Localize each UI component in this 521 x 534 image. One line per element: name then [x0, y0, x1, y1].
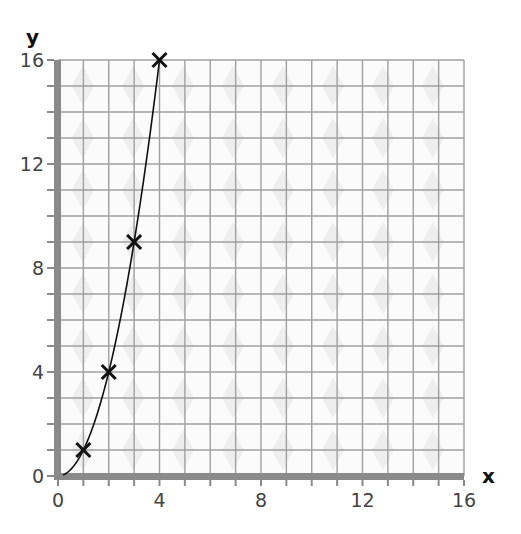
y-axis-title: y — [26, 25, 39, 49]
plot-area: 04812160481216 x y — [20, 25, 495, 511]
x-tick-label: 0 — [52, 489, 64, 511]
y-tick-label: 16 — [20, 49, 44, 71]
y-axis — [54, 60, 61, 480]
x-tick-label: 8 — [255, 489, 267, 511]
x-axis — [54, 473, 464, 480]
x-tick-label: 12 — [350, 489, 374, 511]
y-tick-label: 8 — [32, 257, 44, 279]
x-tick-label: 16 — [452, 489, 476, 511]
x-axis-title: x — [482, 464, 495, 488]
y-tick-label: 4 — [32, 361, 44, 383]
chart: 04812160481216 x y — [0, 0, 521, 534]
y-tick-label: 12 — [20, 153, 44, 175]
x-tick-label: 4 — [153, 489, 165, 511]
y-tick-label: 0 — [32, 465, 44, 487]
